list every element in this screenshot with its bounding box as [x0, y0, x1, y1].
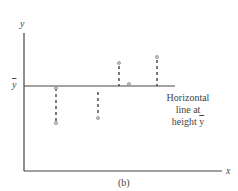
residual-dashes — [56, 60, 157, 121]
annotation-line1: Horizontal — [148, 92, 228, 104]
data-points — [54, 55, 158, 124]
y-axis-label: y — [20, 19, 24, 29]
horizontal-line-annotation: Horizontal line at height y — [148, 92, 228, 128]
x-axis-label: x — [226, 166, 230, 176]
caption: (b) — [118, 178, 130, 188]
annotation-prefix: height — [172, 116, 200, 127]
ybar-label: y — [12, 80, 16, 90]
annotation-symbol: y — [199, 116, 204, 127]
annotation-line3: height y — [148, 116, 228, 128]
annotation-line2: line at — [148, 104, 228, 116]
